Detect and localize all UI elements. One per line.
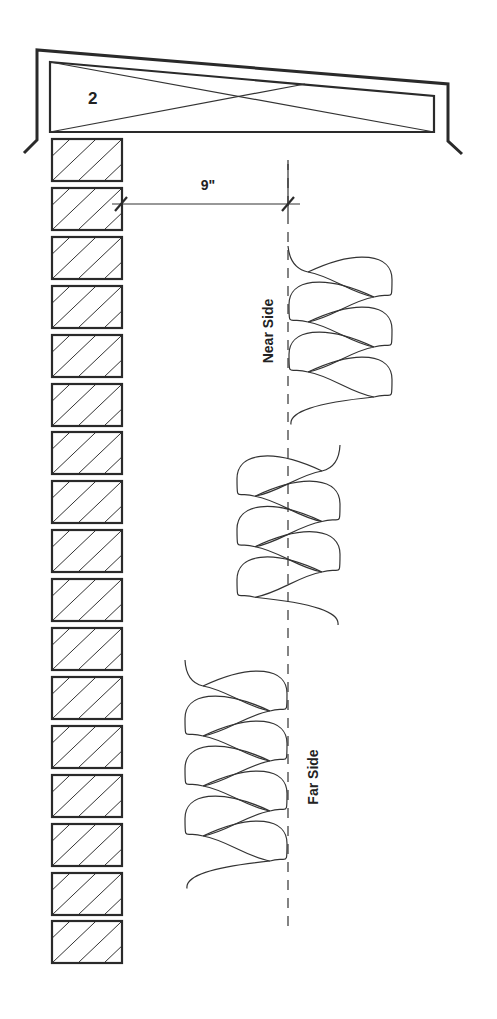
brick [0,335,200,377]
brick [0,237,200,279]
dimension-label: 9" [201,177,215,193]
brick [0,384,200,426]
brick [0,579,200,621]
dimension: 9" [112,164,300,214]
brick [0,921,200,963]
brick [0,775,200,817]
wall-section-diagram: 2 9" Near Side Far Side [0,0,497,1019]
coil-loops [288,246,392,425]
far-side-coil [185,660,287,889]
masonry-wall [0,139,200,963]
brick [0,481,200,523]
near-side-coil [288,246,392,425]
brick [0,726,200,768]
brick [0,873,200,915]
brick [0,286,200,328]
brick [0,824,200,866]
coil-loops [185,660,287,889]
near-side-label: Near Side [260,298,276,363]
header-beam-number: 2 [88,89,97,108]
brick [0,530,200,572]
brick [0,188,200,230]
brick [0,432,200,474]
brick [0,677,200,719]
brick [0,628,200,670]
far-side-label: Far Side [305,749,321,804]
